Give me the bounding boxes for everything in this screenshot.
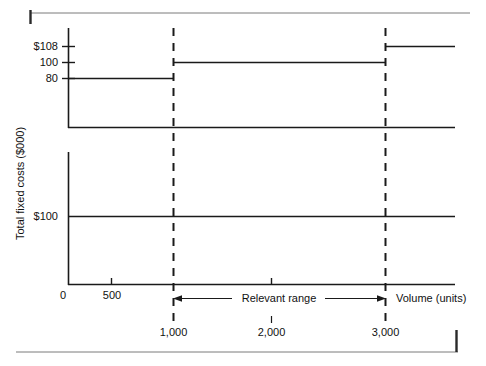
y-tick-label-108: $108: [10, 41, 58, 52]
x-tick-label-500: 500: [94, 290, 130, 301]
x-label-2000: 2,000: [249, 327, 294, 338]
lower-panel-axes: [68, 152, 455, 285]
step-cost-line: [68, 47, 455, 79]
relevant-range-label: Relevant range: [234, 293, 324, 304]
y-axis-title: Total fixed costs ($000): [14, 127, 26, 240]
x-axis-title: Volume (units): [396, 293, 466, 304]
x-label-3000: 3,000: [363, 327, 408, 338]
figure-canvas: Total fixed costs ($000) $108 100 80 $10…: [0, 0, 486, 366]
y-tick-label-100-lower: $100: [10, 211, 58, 222]
x-tick-label-0: 0: [54, 290, 72, 301]
y-tick-label-80: 80: [10, 73, 58, 84]
x-label-1000: 1,000: [151, 327, 196, 338]
horizontal-rule-top: [30, 10, 470, 24]
chart-graphics: [0, 0, 486, 366]
y-tick-label-100: 100: [10, 57, 58, 68]
